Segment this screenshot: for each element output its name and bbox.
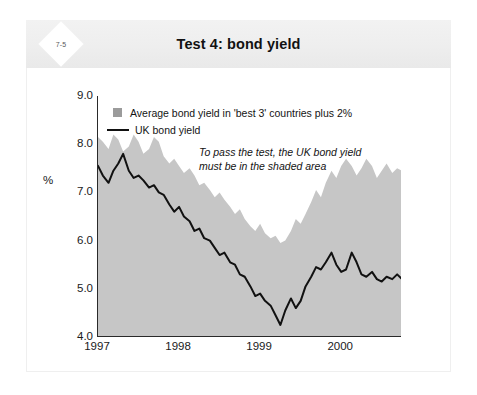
x-axis-tick: 2000 [327, 340, 353, 352]
legend-item-shaded-area: Average bond yield in 'best 3' countries… [113, 104, 403, 121]
x-axis-tick: 1999 [246, 340, 272, 352]
figure-page: 7-5 Test 4: bond yield % 9.08.07.06.05.0… [0, 0, 477, 395]
legend-label-shaded-area: Average bond yield in 'best 3' countries… [130, 107, 352, 119]
annotation-line-1: To pass the test, the UK bond yield [199, 146, 399, 160]
y-axis-tick: 9.0 [49, 90, 93, 102]
page-title: Test 4: bond yield [26, 20, 451, 68]
chart-legend: Average bond yield in 'best 3' countries… [113, 104, 403, 138]
bond-yield-chart: % 9.08.07.06.05.04.0 Average bond yield … [27, 68, 452, 372]
y-axis-tick: 5.0 [49, 283, 93, 295]
chart-card: % 9.08.07.06.05.04.0 Average bond yield … [26, 68, 451, 372]
square-swatch-icon [113, 108, 122, 117]
x-axis-tick: 1998 [165, 340, 191, 352]
legend-item-uk-line: UK bond yield [113, 121, 403, 138]
figure-header: 7-5 Test 4: bond yield [26, 20, 451, 68]
chart-annotation: To pass the test, the UK bond yield must… [199, 146, 399, 174]
x-axis: 1997199819992000 [97, 340, 407, 360]
y-axis-tick: 8.0 [49, 138, 93, 150]
y-axis-tick: 7.0 [49, 186, 93, 198]
x-axis-tick: 1997 [84, 340, 110, 352]
legend-label-uk-line: UK bond yield [135, 124, 200, 136]
y-axis: 9.08.07.06.05.04.0 [43, 96, 93, 337]
y-axis-tick: 6.0 [49, 235, 93, 247]
line-swatch-icon [107, 129, 129, 131]
annotation-line-2: must be in the shaded area [199, 160, 399, 174]
